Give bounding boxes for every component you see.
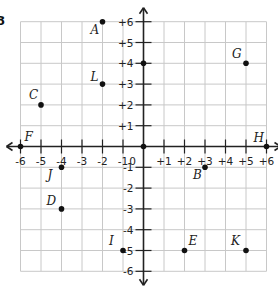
point-label-l: L <box>90 70 99 84</box>
x-tick-label: +2 <box>177 155 192 167</box>
point-g <box>243 61 249 67</box>
y-tick-label: +1 <box>118 120 133 132</box>
point-label-j: J <box>45 168 54 182</box>
y-tick-label: +4 <box>118 57 134 69</box>
x-tick-label: -6 <box>15 155 26 167</box>
point-label-b: B <box>192 168 202 182</box>
point-label-i: I <box>108 234 114 248</box>
point-label-e: E <box>188 234 198 248</box>
point-label-c: C <box>29 88 38 102</box>
y-tick-label: +6 <box>118 16 134 28</box>
point-a <box>100 19 106 25</box>
point-label-f: F <box>24 130 34 144</box>
x-tick-label: +6 <box>259 155 275 167</box>
y-tick-label: -1 <box>123 161 133 173</box>
y-tick-label: -4 <box>123 224 134 236</box>
point-label-a: A <box>90 23 100 37</box>
point-label-g: G <box>232 47 242 61</box>
point-j <box>59 165 65 171</box>
point-label-k: K <box>230 234 241 248</box>
point-unlabeled <box>141 61 147 67</box>
y-tick-label: +3 <box>118 78 133 90</box>
x-tick-label: +1 <box>156 155 171 167</box>
y-tick-label: -2 <box>123 182 133 194</box>
point-c <box>38 102 44 108</box>
point-l <box>100 81 106 87</box>
point-f <box>18 144 24 150</box>
point-b <box>202 165 208 171</box>
x-tick-label: -3 <box>77 155 87 167</box>
point-h <box>264 144 270 150</box>
x-tick-label: +4 <box>218 155 234 167</box>
point-label-h: H <box>253 131 265 145</box>
point-d <box>59 206 65 212</box>
y-tick-label: -6 <box>123 265 134 277</box>
y-tick-label: +2 <box>118 99 133 111</box>
x-tick-label: -2 <box>97 155 107 167</box>
x-tick-label: +5 <box>238 155 253 167</box>
point-label-d: D <box>46 194 57 208</box>
point-i <box>120 248 126 254</box>
coordinate-grid: -6-5-4-3-2-1+1+2+3+4+5+60 +6+5+4+3+2+1-1… <box>0 0 278 295</box>
x-tick-label: -5 <box>36 155 46 167</box>
point-e <box>182 248 188 254</box>
y-tick-label: +5 <box>118 37 133 49</box>
point-unlabeled <box>141 144 147 150</box>
y-tick-label: -3 <box>123 203 133 215</box>
x-axis: -6-5-4-3-2-1+1+2+3+4+5+60 <box>7 140 279 167</box>
point-k <box>243 248 249 254</box>
